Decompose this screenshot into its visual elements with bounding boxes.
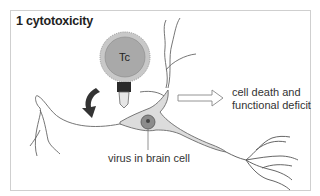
diagram-title: 1 cytotoxicity bbox=[16, 14, 93, 28]
tcell-receptor bbox=[117, 82, 131, 92]
outcome-label-line2: functional deficit bbox=[232, 99, 311, 112]
infected-cell-label: virus in brain cell bbox=[108, 152, 190, 165]
axon-terminals bbox=[226, 136, 298, 190]
outcome-arrow-icon bbox=[178, 90, 223, 106]
outcome-label-line1: cell death and bbox=[232, 86, 301, 99]
curved-arrow-icon bbox=[82, 88, 100, 118]
receptor-tip bbox=[119, 92, 129, 108]
left-process bbox=[30, 96, 135, 156]
virus-icon bbox=[146, 119, 150, 123]
tcell-label: Tc bbox=[119, 51, 130, 63]
